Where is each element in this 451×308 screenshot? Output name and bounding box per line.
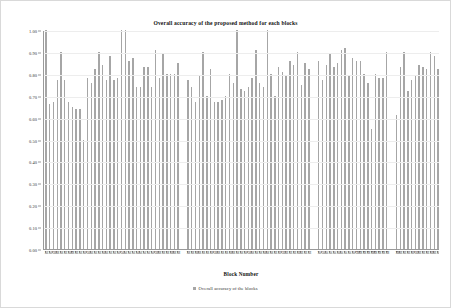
y-tick-mark	[38, 228, 41, 229]
x-tick-label: B88	[387, 251, 390, 254]
bar	[68, 102, 69, 249]
y-tick-label: 0.60	[29, 116, 37, 121]
y-tick-label: 0.00	[29, 248, 37, 253]
y-axis-ticks: 1.000.900.800.700.600.500.400.300.200.10…	[1, 31, 41, 250]
bar	[371, 129, 372, 249]
bar	[60, 52, 61, 249]
bar	[57, 80, 58, 249]
chart-title: Overall accuracy of the proposed method …	[1, 20, 450, 26]
y-tick-label: 0.70	[29, 94, 37, 99]
bar	[87, 78, 88, 249]
bar	[282, 72, 283, 249]
bar	[400, 67, 401, 249]
y-tick-mark	[38, 74, 41, 75]
bar	[248, 87, 249, 249]
bar	[233, 83, 234, 249]
bar	[132, 58, 133, 249]
y-tick-label: 0.50	[29, 138, 37, 143]
y-tick-mark	[38, 250, 41, 251]
bar	[255, 50, 256, 249]
bar	[83, 140, 84, 250]
bar	[217, 102, 218, 249]
bar	[102, 65, 103, 249]
bar	[337, 63, 338, 249]
gridline	[44, 228, 439, 229]
bar	[411, 80, 412, 249]
bar	[422, 67, 423, 249]
chart-legend: Overall accuracy of the blocks	[1, 286, 450, 291]
y-tick-mark	[38, 31, 41, 32]
y-tick-label: 0.40	[29, 160, 37, 165]
bar	[151, 87, 152, 249]
bar	[386, 52, 387, 249]
x-axis-title: Block Number	[43, 271, 439, 277]
bar	[187, 80, 188, 249]
bar	[236, 30, 237, 249]
bar	[191, 87, 192, 249]
legend-swatch-icon	[193, 287, 196, 290]
bar	[378, 78, 379, 249]
bar	[109, 56, 110, 249]
gridline	[44, 53, 439, 54]
bar	[430, 52, 431, 249]
bar	[297, 52, 298, 249]
bar	[177, 63, 178, 249]
bar	[121, 30, 122, 249]
bar	[244, 91, 245, 249]
bar	[293, 65, 294, 249]
bar	[202, 52, 203, 249]
plot-area	[43, 31, 439, 250]
y-tick-mark	[38, 96, 41, 97]
bar	[64, 80, 65, 249]
bar	[128, 61, 129, 249]
gridline	[44, 75, 439, 76]
x-tick-label: B100	[438, 251, 439, 254]
bar	[162, 54, 163, 249]
y-tick-mark	[38, 52, 41, 53]
bar	[106, 80, 107, 249]
y-tick-label: 0.90	[29, 50, 37, 55]
bar	[322, 80, 323, 249]
y-tick-mark	[38, 140, 41, 141]
bar	[117, 78, 118, 249]
bar	[155, 50, 156, 249]
bar	[278, 67, 279, 249]
y-tick-label: 0.80	[29, 72, 37, 77]
bar	[289, 61, 290, 249]
bar	[53, 102, 54, 249]
bar	[214, 102, 215, 249]
bar	[91, 83, 92, 249]
bar	[329, 54, 330, 249]
bar	[418, 65, 419, 249]
bar	[140, 87, 141, 249]
bar	[221, 100, 222, 249]
bar	[143, 67, 144, 249]
bar	[136, 87, 137, 249]
y-tick-label: 0.20	[29, 204, 37, 209]
bar	[367, 83, 368, 249]
y-tick-mark	[38, 206, 41, 207]
gridline	[44, 141, 439, 142]
bar	[195, 102, 196, 249]
bar	[267, 30, 268, 249]
y-tick-label: 0.30	[29, 182, 37, 187]
bar	[240, 89, 241, 249]
legend-item[interactable]: Overall accuracy of the blocks	[193, 286, 257, 291]
bar	[98, 52, 99, 249]
bar	[341, 50, 342, 249]
bar	[113, 80, 114, 249]
bar	[344, 48, 345, 249]
bar	[360, 61, 361, 249]
y-tick-label: 1.00	[29, 29, 37, 34]
bar	[407, 91, 408, 249]
bar	[159, 78, 160, 249]
y-tick-mark	[38, 184, 41, 185]
y-tick-label: 0.10	[29, 226, 37, 231]
bar	[352, 58, 353, 249]
bar	[259, 83, 260, 249]
bar	[263, 87, 264, 249]
gridline	[44, 206, 439, 207]
x-tick-label: B36	[178, 251, 181, 254]
bar	[333, 67, 334, 249]
gridline	[44, 162, 439, 163]
